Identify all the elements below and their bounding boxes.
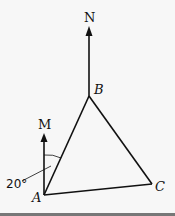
arrowhead-m-icon [41, 133, 48, 142]
side-ab [44, 96, 89, 195]
arrowhead-n-icon [86, 26, 93, 36]
label-m: M [38, 117, 51, 132]
angle-label: 20° [6, 177, 27, 191]
side-bc [89, 96, 152, 184]
footer-bar [0, 213, 175, 216]
label-a: A [31, 190, 41, 205]
label-n: N [84, 10, 95, 25]
angle-arc [44, 155, 61, 158]
label-b: B [93, 82, 104, 97]
label-c: C [155, 179, 165, 194]
side-ac [44, 184, 152, 195]
bearing-diagram: N M 20° A B C [0, 0, 175, 216]
